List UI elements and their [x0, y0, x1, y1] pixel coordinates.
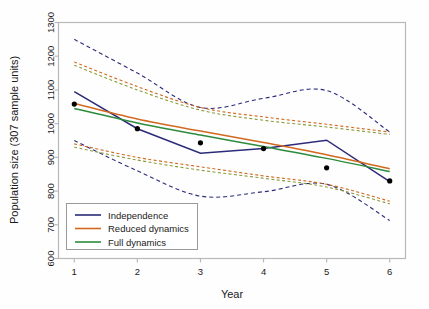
- x-tick-label: 1: [72, 266, 77, 277]
- y-tick-label: 900: [45, 149, 56, 165]
- legend-label-independence: Independence: [108, 210, 168, 221]
- observed-data-point: [387, 178, 392, 183]
- observed-data-point: [198, 140, 203, 145]
- x-tick-label: 5: [324, 266, 329, 277]
- x-tick-label: 3: [198, 266, 203, 277]
- y-tick-label: 1200: [45, 46, 56, 67]
- y-tick-label: 1100: [45, 80, 56, 100]
- chart-figure: 6007008009001000110012001300 123456 Popu…: [0, 0, 429, 309]
- chart-legend: IndependenceReduced dynamicsFull dynamic…: [67, 204, 198, 250]
- y-axis-title: Population size (307 sample units): [8, 56, 20, 224]
- y-tick-label: 800: [45, 183, 56, 199]
- x-tick-label: 6: [387, 266, 392, 277]
- legend-label-reduced-dynamics: Reduced dynamics: [108, 223, 189, 234]
- x-axis-title: Year: [221, 288, 244, 300]
- x-tick-label: 2: [135, 266, 140, 277]
- observed-data-point: [135, 126, 140, 131]
- observed-data-point: [72, 101, 77, 106]
- y-tick-label: 600: [45, 251, 56, 267]
- observed-data-point: [261, 146, 266, 151]
- chart-background: [0, 0, 429, 309]
- legend-label-full-dynamics: Full dynamics: [108, 237, 166, 248]
- observed-data-point: [324, 165, 329, 170]
- y-tick-label: 700: [45, 217, 56, 233]
- y-tick-label: 1000: [45, 113, 56, 134]
- x-tick-label: 4: [261, 266, 266, 277]
- population-projection-chart: 6007008009001000110012001300 123456 Popu…: [0, 0, 429, 309]
- y-tick-label: 1300: [45, 12, 56, 33]
